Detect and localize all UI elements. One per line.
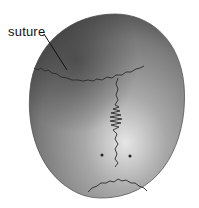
foramen-left	[101, 154, 104, 157]
foramen-right	[129, 155, 132, 158]
suture-label: suture	[8, 24, 45, 39]
